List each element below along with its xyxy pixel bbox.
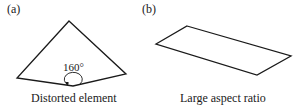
large-aspect-ratio-shape xyxy=(156,26,291,75)
panel-b-caption: Large aspect ratio xyxy=(180,91,266,106)
angle-label: 160° xyxy=(63,61,84,73)
angle-marker xyxy=(66,82,69,85)
distorted-element-shape xyxy=(17,21,126,86)
panel-b-tag: (b) xyxy=(142,2,156,17)
panel-a-caption: Distorted element xyxy=(31,91,117,106)
panel-a-tag: (a) xyxy=(7,2,20,17)
